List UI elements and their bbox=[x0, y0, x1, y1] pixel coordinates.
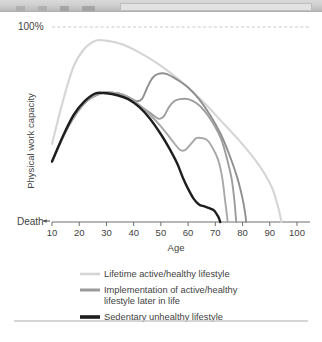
x-tick-80: 80 bbox=[237, 227, 248, 238]
x-tick-50: 50 bbox=[156, 227, 167, 238]
legend-label-1: Implementation of active/healthy bbox=[104, 285, 238, 295]
death-arrow-icon bbox=[43, 219, 50, 223]
chart-figure: 100% Physical work capacity Death 102030… bbox=[0, 11, 322, 342]
y-axis-title: Physical work capacity bbox=[25, 93, 36, 189]
x-axis bbox=[52, 222, 310, 226]
x-tick-70: 70 bbox=[210, 227, 221, 238]
x-tick-90: 90 bbox=[264, 227, 275, 238]
x-tick-40: 40 bbox=[128, 227, 139, 238]
x-tick-100: 100 bbox=[289, 227, 305, 238]
x-tick-20: 20 bbox=[74, 227, 85, 238]
legend-label-1-line2: lifestyle later in life bbox=[104, 296, 180, 306]
toolbar-items bbox=[16, 0, 312, 11]
legend-label-0: Lifetime active/healthy lifestyle bbox=[104, 269, 230, 279]
toolbar-search-field[interactable] bbox=[120, 3, 312, 11]
x-tick-30: 30 bbox=[101, 227, 112, 238]
series-line-0 bbox=[52, 40, 281, 222]
death-label: Death bbox=[17, 216, 44, 227]
series-line-1 bbox=[52, 73, 246, 222]
x-axis-title: Age bbox=[168, 242, 185, 253]
physical-work-capacity-chart: 100% Physical work capacity Death 102030… bbox=[0, 11, 322, 342]
chart-legend: Lifetime active/healthy lifestyleImpleme… bbox=[80, 269, 238, 322]
x-tick-60: 60 bbox=[183, 227, 194, 238]
y-axis-max-label: 100% bbox=[18, 21, 44, 32]
series-line-3 bbox=[52, 92, 228, 222]
x-tick-10: 10 bbox=[47, 227, 58, 238]
x-axis-tick-labels: 102030405060708090100 bbox=[47, 227, 305, 238]
chart-series-group bbox=[52, 40, 281, 222]
